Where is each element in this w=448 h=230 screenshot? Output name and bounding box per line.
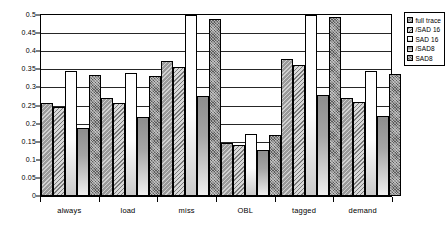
x-axis-labels: alwaysloadmissOBLtaggeddemand [40, 206, 392, 215]
bar [233, 145, 245, 196]
y-axis-tick-label: 0.15 [22, 138, 36, 146]
legend-swatch [407, 17, 413, 23]
bar [89, 75, 101, 196]
bar [125, 73, 137, 196]
legend-swatch [407, 55, 413, 61]
bar [365, 71, 377, 196]
bar [149, 76, 161, 196]
x-axis-tick-mark [99, 197, 100, 202]
bar-group [101, 15, 161, 196]
bar [269, 135, 281, 196]
bar [197, 96, 209, 196]
y-axis-tick-label: 0.3 [26, 83, 36, 91]
legend-item[interactable]: full trace [407, 16, 441, 25]
legend-label: SAD8 [415, 55, 432, 62]
bar [389, 74, 401, 196]
x-axis-label: tagged [275, 206, 334, 215]
bar [113, 103, 125, 196]
bar [353, 102, 365, 196]
y-axis-tick-label: 0.25 [22, 102, 36, 110]
legend-item[interactable]: SAD8 [407, 54, 441, 63]
x-axis-tick-mark [157, 197, 158, 202]
y-axis-tick-label: 0.2 [26, 120, 36, 128]
bar [341, 98, 353, 196]
bar-group [341, 15, 401, 196]
bar [185, 15, 197, 196]
x-tick-marks [40, 197, 392, 202]
legend-swatch [407, 27, 413, 33]
bar [377, 116, 389, 196]
y-axis-tick-label: 0.4 [26, 47, 36, 55]
x-axis-tick-mark [40, 197, 41, 202]
bar-chart: 0.50.450.40.350.30.250.20.150.10.050 alw… [0, 0, 448, 230]
bar [53, 107, 65, 196]
bar [137, 117, 149, 196]
legend: full trace/SAD 16SAD 16/SAD8SAD8 [404, 12, 445, 66]
bar [245, 134, 257, 196]
bar [101, 98, 113, 196]
bar [317, 95, 329, 196]
bar [65, 71, 77, 196]
x-axis-label: OBL [216, 206, 275, 215]
y-axis: 0.50.450.40.350.30.250.20.150.10.050 [0, 14, 40, 197]
legend-item[interactable]: /SAD8 [407, 44, 441, 53]
legend-swatch [407, 46, 413, 52]
x-axis-label: load [99, 206, 158, 215]
legend-item[interactable]: SAD 16 [407, 35, 441, 44]
x-axis-label: miss [157, 206, 216, 215]
x-axis-tick-mark [333, 197, 334, 202]
x-axis-tick-mark [216, 197, 217, 202]
x-axis-label: always [40, 206, 99, 215]
bar-group [221, 15, 281, 196]
legend-swatch [407, 36, 413, 42]
y-axis-tick-label: 0.1 [26, 156, 36, 164]
bar [77, 128, 89, 196]
legend-label: /SAD8 [415, 45, 434, 52]
bar-group [161, 15, 221, 196]
x-axis: alwaysloadmissOBLtaggeddemand [40, 197, 392, 227]
y-axis-tick-label: 0.05 [22, 174, 36, 182]
y-axis-tick-label: 0.35 [22, 65, 36, 73]
bar [173, 67, 185, 196]
legend-item[interactable]: /SAD 16 [407, 25, 441, 34]
x-axis-label: demand [333, 206, 392, 215]
bar [209, 19, 221, 196]
y-axis-tick-label: 0.45 [22, 29, 36, 37]
bar [281, 59, 293, 196]
y-axis-tick-label: 0.5 [26, 11, 36, 19]
bar [41, 103, 53, 196]
bar [161, 61, 173, 196]
bar-group [281, 15, 341, 196]
legend-label: full trace [415, 17, 441, 24]
bar [221, 143, 233, 196]
bar [293, 65, 305, 196]
bar-groups [41, 15, 391, 196]
bar [257, 150, 269, 196]
bar [329, 17, 341, 196]
bar [305, 15, 317, 196]
bar-group [41, 15, 101, 196]
x-axis-tick-mark [392, 197, 393, 202]
legend-label: SAD 16 [415, 36, 438, 43]
x-axis-tick-mark [275, 197, 276, 202]
legend-label: /SAD 16 [415, 26, 440, 33]
